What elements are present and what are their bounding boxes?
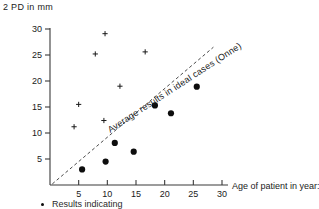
data-point-cross [102,31,107,36]
y-tick-label: 10 [32,128,42,138]
legend-dot-icon [41,203,44,206]
x-tick-label: 5 [76,189,81,199]
y-tick-label: 20 [32,76,42,86]
x-tick-label: 30 [217,189,227,199]
x-axis-label: Age of patient in year: [232,181,319,191]
y-tick-label-group: 51015202530 [32,24,42,164]
x-tick-label: 15 [131,189,141,199]
data-point-dot [79,166,85,172]
data-point-cross [101,118,106,123]
data-point-dot [112,140,118,146]
data-point-cross [76,102,81,107]
data-point-cross [143,49,148,54]
series-dots [79,84,200,173]
y-axis: 51015202530 [32,24,50,185]
x-tick-label-group: 51015202530 [76,189,227,199]
x-tick-group [79,180,222,185]
scatter-chart: 2 PD in mm 51015202530 51015202530 Avera… [0,0,319,209]
data-point-dot [194,84,200,90]
y-tick-group [45,29,50,159]
legend-footnote: Results indicating [0,200,319,209]
x-axis: 51015202530 [50,180,228,199]
y-tick-label: 25 [32,50,42,60]
x-tick-label: 10 [102,189,112,199]
data-point-dot [103,159,109,165]
data-point-cross [117,84,122,89]
y-tick-label: 5 [37,154,42,164]
y-tick-label: 30 [32,24,42,34]
y-tick-label: 15 [32,102,42,112]
plot-area: 51015202530 51015202530 Average results … [0,0,319,209]
legend-footnote-text: Results indicating [52,200,123,209]
x-tick-label: 20 [160,189,170,199]
x-tick-label: 25 [188,189,198,199]
data-point-cross [93,51,98,56]
data-point-dot [168,110,174,116]
data-point-cross [71,124,76,129]
reference-line-annotation: Average results in ideal cases (Onne) [106,41,243,135]
data-point-dot [131,149,137,155]
